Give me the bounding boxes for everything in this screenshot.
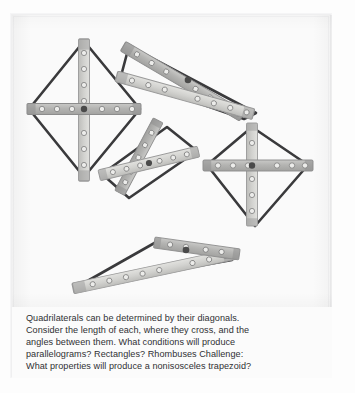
thin-par-pivot — [185, 77, 192, 84]
caption-line-2: Consider the length of each, where they … — [26, 325, 318, 337]
figures-canvas — [12, 15, 332, 307]
scanned-page: Quadrilaterals can be determined by thei… — [0, 0, 355, 393]
trapezoid-pivot — [183, 247, 190, 254]
caption-line-3: angles between them. What conditions wil… — [26, 337, 318, 349]
caption-line-5: What properties will produce a nonisosce… — [26, 361, 318, 373]
caption-block: Quadrilaterals can be determined by thei… — [12, 307, 332, 378]
kite-horizontal-strip — [203, 160, 313, 171]
caption-line-4: parallelograms? Rectangles? Rhombuses Ch… — [26, 349, 318, 361]
kite-vertical-strip — [247, 123, 258, 226]
rhombus-pivot — [81, 106, 87, 112]
kite-pivot — [249, 162, 255, 168]
rect-pivot — [146, 160, 152, 166]
caption-line-1: Quadrilaterals can be determined by thei… — [26, 313, 318, 325]
kite-figure — [203, 123, 313, 226]
rectangle-figure — [98, 118, 200, 198]
page-sheet: Quadrilaterals can be determined by thei… — [11, 14, 331, 377]
figures-svg — [12, 15, 332, 307]
trapezoid-figure — [72, 237, 240, 294]
